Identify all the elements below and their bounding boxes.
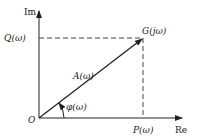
- imag-part-label: Q(ω): [4, 33, 26, 43]
- real-part-label: P(ω): [132, 125, 154, 135]
- magnitude-label: A(ω): [72, 71, 94, 81]
- imaginary-axis-label: Im: [24, 7, 37, 17]
- complex-plane-diagram: Im Re O G(jω) A(ω) φ(ω) Q(ω) P(ω): [0, 0, 199, 140]
- point-label: G(jω): [142, 26, 167, 36]
- origin-label: O: [28, 115, 36, 125]
- real-axis-label: Re: [175, 125, 187, 135]
- phase-arc: [59, 103, 64, 118]
- phase-label: φ(ω): [66, 102, 87, 112]
